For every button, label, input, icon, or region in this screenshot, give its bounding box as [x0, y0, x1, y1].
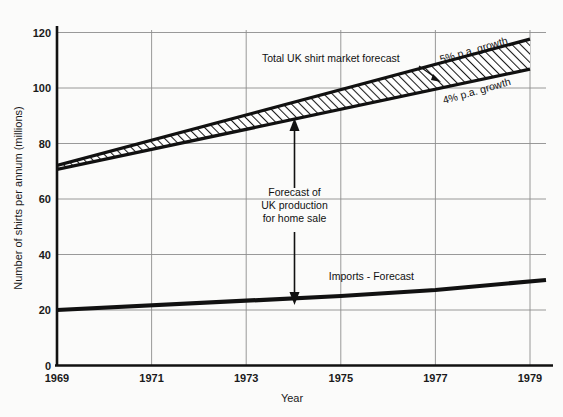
y-tick-40: 40 [39, 249, 51, 261]
production-callout-line2: UK production [261, 199, 328, 211]
y-tick-100: 100 [33, 82, 51, 94]
y-tick-0: 0 [45, 360, 51, 372]
x-tick-1977: 1977 [423, 372, 447, 384]
production-gap-callout: Forecast of UK production for home sale [261, 186, 328, 224]
imports-forecast-label: Imports - Forecast [329, 270, 414, 282]
x-axis-title: Year [281, 392, 304, 404]
x-tick-1975: 1975 [329, 372, 353, 384]
x-tick-1971: 1971 [139, 372, 163, 384]
y-tick-20: 20 [39, 304, 51, 316]
y-tick-120: 120 [33, 27, 51, 39]
x-tick-1969: 1969 [45, 372, 69, 384]
chart-figure: 120 100 80 60 40 20 0 1969 1971 1973 197… [0, 0, 563, 417]
x-tick-1979: 1979 [518, 372, 542, 384]
chart-svg: 120 100 80 60 40 20 0 1969 1971 1973 197… [0, 0, 563, 417]
y-tick-60: 60 [39, 193, 51, 205]
y-tick-80: 80 [39, 138, 51, 150]
x-tick-1973: 1973 [234, 372, 258, 384]
y-axis-title: Number of shirts per annum (millions) [12, 106, 24, 289]
production-callout-line3: for home sale [263, 212, 327, 224]
production-callout-line1: Forecast of [268, 186, 321, 198]
total-market-callout-label: Total UK shirt market forecast [262, 52, 400, 64]
